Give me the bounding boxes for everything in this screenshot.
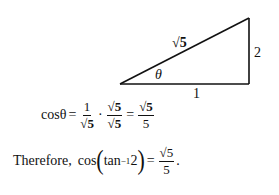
- denominator: 5: [163, 162, 170, 177]
- fraction-1-over-sqrt5: 1 √5: [80, 100, 94, 130]
- right-paren: ): [137, 148, 144, 174]
- left-paren: (: [96, 148, 103, 174]
- opposite-side-label: 2: [254, 46, 261, 60]
- denominator: 5: [143, 116, 150, 131]
- conclusion-equation: Therefore, cos ( tan −1 2 ) = √5 5 .: [13, 146, 180, 176]
- equation-lhs: cosθ: [41, 107, 66, 123]
- hypotenuse-label: √5: [172, 36, 187, 50]
- numerator: √5: [138, 100, 154, 116]
- adjacent-side-label: 1: [193, 87, 200, 101]
- cos-function: cos: [78, 153, 97, 169]
- multiply-dot: ·: [98, 107, 103, 123]
- tan-argument: 2: [130, 153, 137, 169]
- therefore-text: Therefore,: [13, 153, 72, 169]
- tan-function: tan: [104, 153, 121, 169]
- equals-sign: =: [126, 107, 134, 123]
- period: .: [176, 153, 180, 169]
- numerator: √5: [159, 146, 175, 162]
- equals-sign: =: [147, 153, 155, 169]
- denominator: √5: [108, 116, 122, 131]
- fraction-sqrt5-over-sqrt5: √5 √5: [107, 100, 123, 130]
- angle-theta-label: θ: [155, 68, 162, 82]
- denominator: √5: [80, 116, 94, 131]
- numerator: √5: [107, 100, 123, 116]
- cosine-equation: cosθ = 1 √5 · √5 √5 = √5 5: [41, 100, 156, 130]
- equals-sign: =: [68, 107, 76, 123]
- fraction-sqrt5-over-5: √5 5: [159, 146, 175, 176]
- numerator: 1: [83, 100, 92, 116]
- fraction-sqrt5-over-5: √5 5: [138, 100, 154, 130]
- inverse-superscript: −1: [121, 156, 131, 166]
